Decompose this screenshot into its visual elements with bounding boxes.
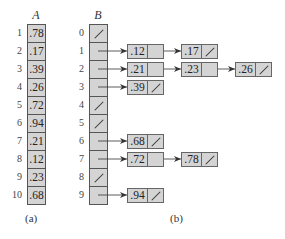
null-pointer-icon xyxy=(151,137,160,146)
null-pointer-icon xyxy=(205,155,214,164)
null-pointer-icon xyxy=(205,47,214,56)
node-next-pointer xyxy=(202,63,217,76)
list-node: .94 xyxy=(127,188,164,203)
list-node: .26 xyxy=(235,62,272,77)
pointer-arrows xyxy=(0,0,285,239)
node-value: .26 xyxy=(236,63,256,76)
node-next-pointer xyxy=(256,63,271,76)
null-pointer-icon xyxy=(259,65,268,74)
node-next-pointer xyxy=(202,153,217,166)
node-value: .78 xyxy=(182,153,202,166)
node-value: .68 xyxy=(128,135,148,148)
null-pointer-icon xyxy=(151,191,160,200)
list-node: .78 xyxy=(181,152,218,167)
list-node: .12 xyxy=(127,44,164,59)
list-node: .17 xyxy=(181,44,218,59)
node-value: .72 xyxy=(128,153,148,166)
list-node: .72 xyxy=(127,152,164,167)
list-node: .39 xyxy=(127,80,164,95)
node-next-pointer xyxy=(202,45,217,58)
node-value: .21 xyxy=(128,63,148,76)
node-next-pointer xyxy=(148,153,163,166)
node-value: .17 xyxy=(182,45,202,58)
node-next-pointer xyxy=(148,63,163,76)
node-value: .39 xyxy=(128,81,148,94)
node-value: .12 xyxy=(128,45,148,58)
node-next-pointer xyxy=(148,81,163,94)
node-next-pointer xyxy=(148,135,163,148)
list-node: .23 xyxy=(181,62,218,77)
node-next-pointer xyxy=(148,189,163,202)
list-node: .21 xyxy=(127,62,164,77)
null-pointer-icon xyxy=(151,83,160,92)
list-node: .68 xyxy=(127,134,164,149)
node-next-pointer xyxy=(148,45,163,58)
node-value: .94 xyxy=(128,189,148,202)
node-value: .23 xyxy=(182,63,202,76)
